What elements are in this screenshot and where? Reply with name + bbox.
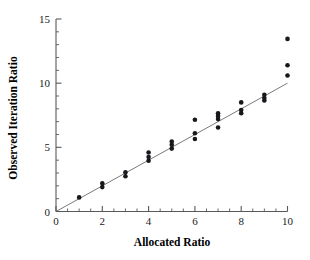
data-point	[193, 137, 198, 142]
x-axis-tick-label: 0	[53, 215, 59, 227]
data-point	[100, 181, 105, 186]
plot-area: 0246810051015 Allocated Ratio Observed I…	[0, 0, 310, 260]
y-axis-tick-label: 0	[45, 206, 51, 218]
y-axis-title: Observed Iteration Ratio	[7, 56, 19, 180]
data-point	[216, 111, 221, 116]
data-point	[262, 92, 267, 97]
scatter-chart-figure: 0246810051015 Allocated Ratio Observed I…	[0, 0, 310, 260]
axes-group	[56, 19, 288, 212]
data-point	[239, 100, 244, 105]
data-point	[146, 155, 151, 160]
tick-labels-group: 0246810051015	[39, 13, 294, 227]
data-point	[285, 73, 290, 78]
data-point	[193, 131, 198, 136]
data-points-group	[77, 37, 290, 200]
x-axis-tick-label: 10	[282, 215, 294, 227]
y-axis-tick-label: 15	[39, 13, 51, 25]
data-point	[77, 195, 82, 200]
data-point	[285, 63, 290, 68]
x-axis-tick-label: 6	[192, 215, 198, 227]
x-axis-tick-label: 4	[146, 215, 152, 227]
x-axis-tick-label: 2	[100, 215, 106, 227]
data-point	[216, 125, 221, 130]
data-point	[146, 150, 151, 155]
y-axis-tick-label: 5	[45, 141, 51, 153]
y-axis-tick-label: 10	[39, 77, 51, 89]
data-point	[239, 108, 244, 113]
data-point	[285, 37, 290, 42]
data-point	[123, 170, 128, 175]
x-axis-title: Allocated Ratio	[134, 236, 211, 248]
x-axis-tick-label: 8	[238, 215, 244, 227]
data-point	[169, 139, 174, 144]
data-point	[193, 117, 198, 122]
